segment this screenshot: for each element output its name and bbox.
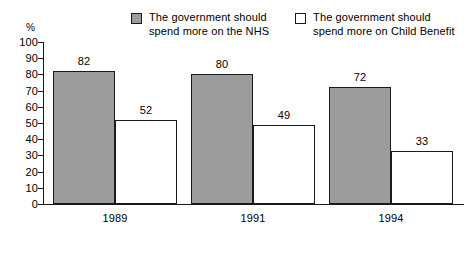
bar-chart: The government should spend more on the … [0, 0, 470, 253]
bar-1991-child-benefit [253, 125, 315, 204]
chart-legend: The government should spend more on the … [131, 11, 455, 38]
bar-1989-nhs [53, 71, 115, 204]
y-axis-tick-label: 60 [14, 101, 38, 113]
legend-label-nhs: The government should spend more on the … [149, 11, 269, 38]
y-axis-unit-label: % [26, 22, 35, 33]
y-axis-tick-label: 50 [14, 117, 38, 129]
legend-item-nhs: The government should spend more on the … [131, 11, 269, 38]
bar-1989-child-benefit [115, 120, 177, 204]
bar-value-label: 80 [216, 58, 228, 70]
y-axis-tick-label: 40 [14, 133, 38, 145]
bar-1991-nhs [191, 74, 253, 204]
legend-label-child-benefit: The government should spend more on Chil… [313, 11, 455, 38]
legend-item-child-benefit: The government should spend more on Chil… [295, 11, 455, 38]
legend-swatch-nhs-icon [131, 13, 142, 24]
bar-1994-child-benefit [391, 151, 453, 204]
x-axis-label-1991: 1991 [241, 212, 266, 224]
y-axis-tick-label: 10 [14, 182, 38, 194]
x-axis-label-1994: 1994 [379, 212, 404, 224]
y-axis-tick-label: 30 [14, 149, 38, 161]
y-axis-tick-label: 100 [14, 36, 38, 48]
x-axis-label-1989: 1989 [103, 212, 128, 224]
bar-value-label: 49 [278, 109, 290, 121]
y-axis-tick-label: 80 [14, 68, 38, 80]
y-axis-tick-label: 0 [14, 198, 38, 210]
y-axis-tick-label: 70 [14, 85, 38, 97]
bar-value-label: 52 [140, 104, 152, 116]
legend-swatch-child-benefit-icon [295, 13, 306, 24]
bar-value-label: 82 [78, 55, 90, 67]
bar-value-label: 72 [354, 71, 366, 83]
x-axis-line [43, 204, 464, 205]
y-axis-tick-label: 90 [14, 52, 38, 64]
y-axis-line [43, 42, 44, 205]
y-axis-tick-label: 20 [14, 166, 38, 178]
bar-value-label: 33 [416, 135, 428, 147]
bar-1994-nhs [329, 87, 391, 204]
